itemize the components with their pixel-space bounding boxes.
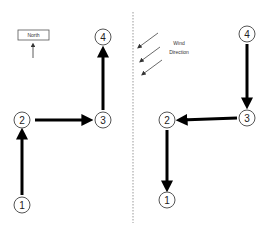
svg-text:2: 2 <box>19 115 25 126</box>
left-diagram-arrows <box>22 51 103 195</box>
wind-arrow-icon <box>139 33 158 47</box>
svg-text:4: 4 <box>100 32 106 43</box>
right-node-4: 4 <box>239 26 255 42</box>
arrow-3-to-2 <box>181 118 237 120</box>
left-node-3: 3 <box>95 112 111 128</box>
right-node-1: 1 <box>159 192 175 208</box>
north-legend: North <box>18 30 49 58</box>
left-node-2: 2 <box>14 112 30 128</box>
north-label: North <box>27 32 39 38</box>
svg-text:3: 3 <box>244 113 250 124</box>
right-diagram-arrows <box>167 44 247 187</box>
left-node-4: 4 <box>95 29 111 45</box>
wind-label: Wind <box>173 40 185 46</box>
right-node-2: 2 <box>159 112 175 128</box>
svg-text:3: 3 <box>100 115 106 126</box>
right-node-3: 3 <box>239 110 255 126</box>
svg-text:1: 1 <box>164 195 170 206</box>
diagram-canvas: North Wind Direction 1 2 3 4 1 2 3 4 <box>0 0 272 230</box>
wind-arrow-icon <box>143 60 162 74</box>
direction-label: Direction <box>169 49 189 55</box>
wind-arrow-icon <box>141 47 160 61</box>
svg-text:2: 2 <box>164 115 170 126</box>
svg-text:1: 1 <box>19 200 25 211</box>
svg-text:4: 4 <box>244 29 250 40</box>
wind-legend: Wind Direction <box>139 33 189 74</box>
left-node-1: 1 <box>14 197 30 213</box>
